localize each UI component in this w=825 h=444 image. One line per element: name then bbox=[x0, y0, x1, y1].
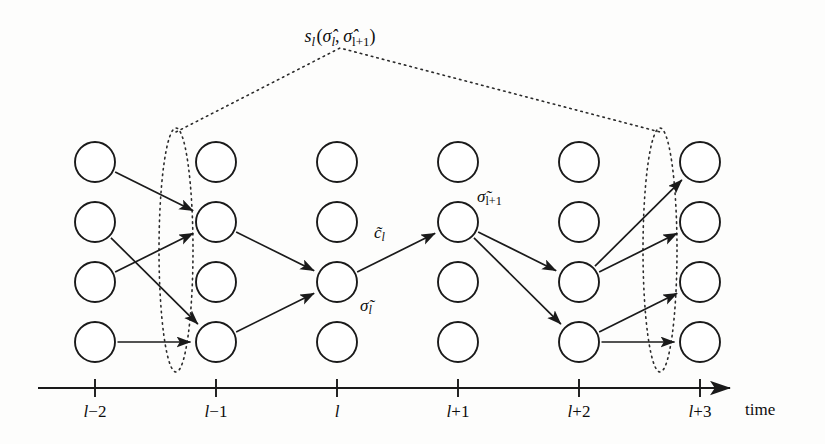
time-tick-label: l+2 bbox=[568, 402, 591, 422]
trellis-node bbox=[438, 322, 478, 362]
trellis-node bbox=[680, 142, 720, 182]
trellis-figure: sl (σ̂l, σ̂l+1) c̃l σ̃l σ̃l+1 l−2l−1ll+1… bbox=[0, 0, 825, 444]
trellis-node bbox=[317, 142, 357, 182]
trellis-node bbox=[438, 262, 478, 302]
trellis-canvas bbox=[0, 0, 825, 444]
trellis-node bbox=[75, 322, 115, 362]
score-function-label: sl (σ̂l, σ̂l+1) bbox=[304, 26, 375, 50]
trellis-node bbox=[438, 142, 478, 182]
score-bracket bbox=[176, 48, 660, 132]
trellis-node bbox=[680, 322, 720, 362]
trellis-node bbox=[75, 142, 115, 182]
c-tilde-l-label: c̃l bbox=[374, 224, 385, 244]
time-axis-title: time bbox=[745, 400, 775, 420]
trellis-node bbox=[317, 262, 357, 302]
time-tick-label: l−1 bbox=[205, 402, 228, 422]
trellis-node bbox=[317, 322, 357, 362]
time-tick-label: l+3 bbox=[689, 402, 712, 422]
sigma-tilde-l-plus-1-label: σ̃l+1 bbox=[477, 188, 502, 208]
trellis-node bbox=[196, 262, 236, 302]
trellis-node bbox=[196, 202, 236, 242]
trellis-node bbox=[196, 322, 236, 362]
transition-edges bbox=[111, 172, 682, 342]
trellis-node bbox=[559, 202, 599, 242]
time-tick-label: l+1 bbox=[447, 402, 470, 422]
time-tick-label: l−2 bbox=[84, 402, 107, 422]
trellis-node bbox=[75, 202, 115, 242]
trellis-node bbox=[196, 142, 236, 182]
trellis-node bbox=[680, 262, 720, 302]
time-axis bbox=[38, 379, 730, 397]
time-tick-label: l bbox=[335, 402, 340, 422]
trellis-node bbox=[559, 322, 599, 362]
trellis-node bbox=[438, 202, 478, 242]
trellis-node bbox=[75, 262, 115, 302]
trellis-node bbox=[317, 202, 357, 242]
sigma-tilde-l-label: σ̃l bbox=[360, 297, 372, 317]
trellis-node bbox=[559, 262, 599, 302]
trellis-node bbox=[559, 142, 599, 182]
trellis-node bbox=[680, 202, 720, 242]
